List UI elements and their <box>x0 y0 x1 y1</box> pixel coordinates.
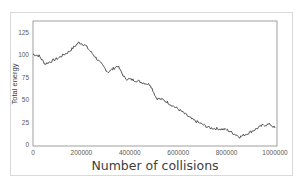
x-tick-label: 1000000 <box>262 149 288 156</box>
energy-line <box>33 42 275 138</box>
y-tick-label: 125 <box>18 29 29 36</box>
x-tick-label: 600000 <box>167 149 189 156</box>
x-tick-label: 0 <box>31 149 35 156</box>
y-tick-label: 25 <box>22 119 30 126</box>
x-axis-title: Number of collisions <box>91 158 218 173</box>
y-tick-label: 75 <box>22 74 30 81</box>
y-tick-label: 50 <box>22 96 30 103</box>
y-axis-title: Total energy <box>10 63 19 104</box>
y-tick-label: 0 <box>25 141 29 148</box>
line-chart: 0255075100125 02000004000006000008000001… <box>0 0 303 185</box>
y-tick-label: 100 <box>18 51 29 58</box>
x-tick-label: 200000 <box>71 149 93 156</box>
x-tick-label: 400000 <box>119 149 141 156</box>
x-tick-label: 800000 <box>216 149 238 156</box>
y-axis-ticks: 0255075100125 <box>18 29 29 149</box>
plot-area <box>33 21 277 146</box>
x-axis-ticks: 02000004000006000008000001000000 <box>31 149 288 156</box>
